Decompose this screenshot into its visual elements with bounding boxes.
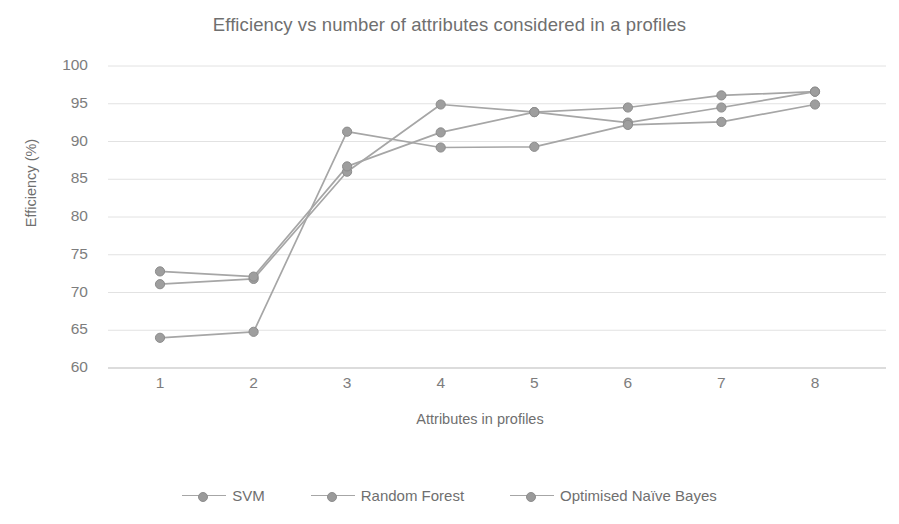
x-tick-label: 3 [327, 374, 367, 392]
series-lines [160, 92, 815, 338]
y-tick-label: 90 [42, 132, 88, 150]
legend-marker-icon [182, 490, 226, 502]
data-point-marker [155, 333, 164, 342]
y-tick-label: 85 [42, 169, 88, 187]
data-point-marker [810, 87, 819, 96]
y-tick-label: 80 [42, 207, 88, 225]
gridlines [108, 66, 886, 368]
x-tick-label: 1 [140, 374, 180, 392]
data-point-marker [810, 100, 819, 109]
legend-entry-2[interactable]: Optimised Naïve Bayes [510, 487, 717, 504]
legend-marker-icon [510, 490, 554, 502]
legend-label: SVM [232, 487, 265, 504]
data-point-marker [343, 127, 352, 136]
series-markers [155, 87, 819, 342]
data-point-marker [249, 272, 258, 281]
data-point-marker [436, 128, 445, 137]
x-tick-label: 2 [234, 374, 274, 392]
chart-legend: SVMRandom ForestOptimised Naïve Bayes [0, 487, 899, 504]
y-tick-label: 60 [42, 358, 88, 376]
legend-entry-1[interactable]: Random Forest [311, 487, 464, 504]
legend-marker-icon [311, 490, 355, 502]
data-point-marker [530, 108, 539, 117]
x-tick-label: 7 [701, 374, 741, 392]
data-point-marker [249, 327, 258, 336]
x-tick-label: 8 [795, 374, 835, 392]
series-line-2 [160, 105, 815, 338]
data-point-marker [155, 280, 164, 289]
x-tick-label: 6 [608, 374, 648, 392]
data-point-marker [717, 103, 726, 112]
data-point-marker [343, 162, 352, 171]
data-point-marker [436, 100, 445, 109]
y-tick-label: 75 [42, 245, 88, 263]
data-point-marker [623, 120, 632, 129]
data-point-marker [155, 267, 164, 276]
data-point-marker [717, 91, 726, 100]
chart-figure: Efficiency vs number of attributes consi… [0, 0, 899, 524]
data-point-marker [623, 103, 632, 112]
x-tick-label: 5 [514, 374, 554, 392]
data-point-marker [717, 117, 726, 126]
legend-entry-0[interactable]: SVM [182, 487, 265, 504]
y-tick-label: 65 [42, 320, 88, 338]
data-point-marker [530, 142, 539, 151]
y-tick-label: 70 [42, 283, 88, 301]
y-tick-label: 100 [42, 56, 88, 74]
legend-label: Random Forest [361, 487, 464, 504]
x-tick-label: 4 [421, 374, 461, 392]
plot-area [0, 0, 899, 524]
data-point-marker [436, 143, 445, 152]
series-line-1 [160, 92, 815, 277]
y-tick-label: 95 [42, 94, 88, 112]
legend-label: Optimised Naïve Bayes [560, 487, 717, 504]
